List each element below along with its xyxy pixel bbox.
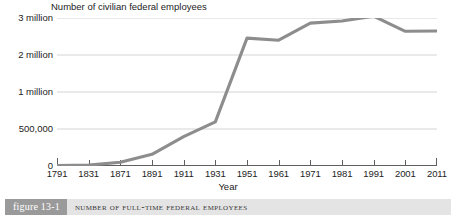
figure-container: Number of civilian federal employees 050… bbox=[0, 0, 456, 223]
x-tick-label: 1971 bbox=[300, 168, 321, 180]
y-tick-label: 2 million bbox=[18, 50, 53, 60]
x-tick-label: 2001 bbox=[395, 168, 416, 180]
y-tick-label: 500,000 bbox=[19, 124, 53, 134]
x-tick-label: 1961 bbox=[268, 168, 289, 180]
gridlines bbox=[57, 18, 437, 129]
figure-caption-bar: figure 13-1 Number of Full-Time Federal … bbox=[5, 199, 451, 215]
x-tick-label: 1931 bbox=[205, 168, 226, 180]
x-tick-label: 1911 bbox=[174, 168, 194, 180]
x-tick-label: 1951 bbox=[237, 168, 258, 180]
x-axis: 1791183118711891191119311951196119711981… bbox=[57, 168, 437, 181]
chart-title: Number of civilian federal employees bbox=[51, 1, 207, 13]
figure-number-badge: figure 13-1 bbox=[5, 199, 67, 215]
x-axis-title: Year bbox=[0, 181, 456, 193]
x-tick-label: 1891 bbox=[142, 168, 163, 180]
x-tick-label: 1871 bbox=[110, 168, 131, 180]
x-tick-label: 1991 bbox=[363, 168, 384, 180]
x-tick-label: 1831 bbox=[78, 168, 99, 180]
x-tick-label: 1791 bbox=[47, 168, 68, 180]
x-tick-label: 2011 bbox=[427, 168, 447, 180]
caption-strip: Number of Full-Time Federal Employees bbox=[67, 199, 451, 215]
figure-caption-text: Number of Full-Time Federal Employees bbox=[75, 200, 248, 214]
x-tick-label: 1981 bbox=[332, 168, 353, 180]
plot-area bbox=[57, 18, 437, 166]
y-tick-label: 1 million bbox=[18, 87, 53, 97]
y-tick-label: 3 million bbox=[18, 13, 53, 23]
line-chart-svg bbox=[57, 18, 437, 166]
y-axis: 0500,0001 million2 million3 million bbox=[0, 18, 53, 166]
